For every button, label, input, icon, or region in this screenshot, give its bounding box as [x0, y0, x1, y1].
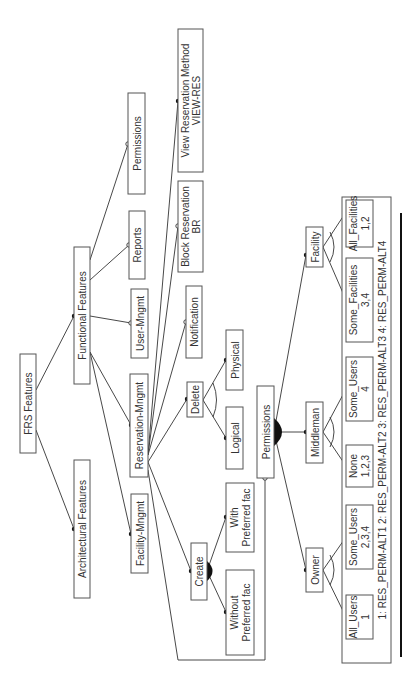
node-label: User-Mngmt — [135, 296, 146, 351]
node-label: Facility-Mngmt — [135, 501, 146, 566]
edge-permissions-facility — [274, 255, 306, 432]
edge-delete-logical — [203, 400, 226, 438]
node-reservation-mngmt[interactable]: Reservation-Mngmt — [130, 374, 148, 477]
node-label-line1: Block Reservation — [180, 186, 191, 267]
node-some-users-owner[interactable]: Some_Users 2,3,4 — [346, 505, 373, 569]
node-label-line1: Without — [229, 595, 240, 629]
node-user-mngmt[interactable]: User-Mngmt — [131, 289, 148, 358]
node-label: Facility — [310, 231, 321, 262]
node-all-facilities[interactable]: All_Facilities 1,2 — [346, 196, 373, 252]
node-middleman[interactable]: Middleman — [306, 402, 323, 463]
edge-reservation-create — [148, 462, 191, 571]
edge-functional-facility — [90, 352, 131, 534]
node-facility[interactable]: Facility — [306, 227, 323, 267]
node-label-line2: 1 — [360, 614, 371, 620]
node-label-line2: BR — [191, 220, 202, 234]
or-arc-permissions — [274, 418, 282, 446]
node-label-line2: 3,4 — [360, 293, 371, 307]
node-functional-features[interactable]: Functional Features — [74, 247, 90, 384]
node-without-preferred-fac[interactable]: Without Preferred fac — [226, 570, 254, 655]
node-label: Reservation-Mngmt — [134, 382, 145, 469]
node-label-line2: Preferred fac — [241, 584, 252, 642]
node-label-line1: Some_Users — [348, 508, 359, 566]
edge-create-with — [207, 517, 226, 571]
node-delete[interactable]: Delete — [187, 382, 203, 417]
node-facility-mngmt[interactable]: Facility-Mngmt — [131, 494, 148, 573]
node-label-line1: None — [348, 454, 359, 478]
node-view-reservation[interactable]: View Reservation Method VIEW-RES — [178, 29, 203, 172]
node-label-line1: All_Facilities — [348, 196, 359, 252]
node-with-preferred-fac[interactable]: With Preferred fac — [226, 483, 254, 552]
node-label-line1: All_Users — [348, 596, 359, 639]
edge-root-functional — [36, 316, 74, 390]
node-permissions-top[interactable]: Permissions — [128, 93, 145, 194]
node-reports[interactable]: Reports — [129, 211, 145, 279]
node-label-line1: View Reservation Method — [180, 44, 191, 158]
node-label: Architectural Features — [77, 480, 88, 578]
node-label-line2: 4 — [360, 386, 371, 392]
node-label: Owner — [310, 555, 321, 585]
node-label: Middleman — [310, 408, 321, 457]
node-label: Functional Features — [77, 271, 88, 359]
node-label: Physical — [230, 341, 241, 378]
node-frs-features[interactable]: FRS Features — [20, 354, 36, 453]
alt-arc-facility — [330, 232, 334, 262]
node-label: Create — [194, 556, 205, 586]
node-label-line2: 1,2,3 — [360, 454, 371, 477]
node-label: FRS Features — [23, 372, 34, 434]
node-label-line2: 2,3,4 — [360, 525, 371, 548]
node-physical[interactable]: Physical — [226, 330, 243, 390]
node-architectural-features[interactable]: Architectural Features — [74, 460, 90, 598]
or-arc-create — [207, 561, 213, 581]
markers — [72, 99, 348, 619]
node-label-line1: Some_Users — [348, 360, 359, 418]
node-owner[interactable]: Owner — [306, 548, 323, 592]
node-label: Permissions — [261, 405, 272, 459]
feature-model-diagram: FRS Features Architectural Features Func… — [0, 0, 410, 685]
node-label: Delete — [190, 385, 201, 414]
edge-root-architectural — [36, 430, 74, 529]
alt-arc-delete — [213, 383, 217, 417]
node-label-line1: Some_Facilities — [348, 265, 359, 336]
node-notification[interactable]: Notification — [186, 286, 202, 358]
node-label-line1: With — [229, 508, 240, 528]
edge-functional-reservation — [90, 352, 131, 425]
alternatives-legend: 1: RES_PERM-ALT1 2: RES_PERM-ALT2 3: RES… — [377, 240, 388, 619]
node-some-users-middleman[interactable]: Some_Users 4 — [346, 357, 373, 421]
node-label: Logical — [230, 422, 241, 454]
edge-functional-permissions-top — [90, 144, 128, 260]
node-none[interactable]: None 1,2,3 — [346, 445, 373, 487]
node-label: Notification — [189, 297, 200, 346]
node-label-line2: 1,2 — [360, 216, 371, 230]
node-label-line2: VIEW-RES — [191, 76, 202, 126]
node-label-line2: Preferred fac — [241, 489, 252, 547]
edge-functional-reports — [90, 245, 129, 280]
edge-delete-physical — [203, 360, 226, 400]
node-block-reservation[interactable]: Block Reservation BR — [178, 181, 203, 272]
node-label: Permissions — [132, 116, 143, 170]
node-permissions[interactable]: Permissions — [257, 386, 274, 478]
node-create[interactable]: Create — [191, 543, 207, 600]
node-all-users[interactable]: All_Users 1 — [346, 595, 373, 639]
node-logical[interactable]: Logical — [226, 407, 243, 469]
node-label: Reports — [132, 227, 143, 262]
node-some-facilities[interactable]: Some_Facilities 3,4 — [346, 258, 373, 342]
edge-functional-user — [90, 316, 131, 323]
edge-permissions-owner — [274, 432, 306, 570]
